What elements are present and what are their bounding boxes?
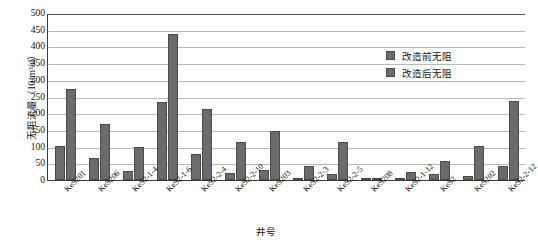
- bars-layer: [48, 14, 525, 180]
- bar: [202, 109, 212, 180]
- bar: [293, 178, 303, 180]
- bar: [123, 171, 133, 180]
- bar: [429, 174, 439, 180]
- y-tick-label: 150: [3, 126, 45, 136]
- legend-label: 改造前无阻: [402, 49, 452, 63]
- bar: [474, 146, 484, 180]
- bar-group: [287, 14, 321, 180]
- bar-group: [491, 14, 525, 180]
- y-tick-label: 400: [3, 43, 45, 53]
- bar-group: [423, 14, 457, 180]
- y-tick-label: 100: [3, 143, 45, 153]
- bar-group: [218, 14, 252, 180]
- legend: 改造前无阻改造后无阻: [386, 48, 516, 82]
- bar-group: [321, 14, 355, 180]
- bar: [191, 154, 201, 180]
- bar: [66, 89, 76, 180]
- bar: [395, 178, 405, 180]
- bar: [498, 166, 508, 180]
- plot-area: 050100150200250300350400450500: [47, 14, 525, 181]
- bar-group: [116, 14, 150, 180]
- legend-swatch-icon: [386, 51, 395, 60]
- bar: [157, 102, 167, 180]
- bar: [89, 158, 99, 180]
- legend-item: 改造前无阻: [386, 48, 516, 63]
- legend-swatch-icon: [386, 68, 395, 77]
- legend-label: 改造后无阻: [402, 66, 452, 80]
- y-tick-label: 200: [3, 109, 45, 119]
- bar: [463, 176, 473, 180]
- bar-group: [48, 14, 82, 180]
- bar: [361, 178, 371, 180]
- bar: [100, 124, 110, 180]
- bar: [236, 142, 246, 180]
- bar: [509, 101, 519, 180]
- y-tick-label: 0: [3, 176, 45, 186]
- x-axis-title: 井号: [0, 224, 531, 238]
- y-tick-label: 500: [3, 9, 45, 19]
- bar-group: [82, 14, 116, 180]
- bar: [168, 34, 178, 180]
- y-tick-label: 250: [3, 93, 45, 103]
- y-tick-label: 350: [3, 59, 45, 69]
- bar-group: [355, 14, 389, 180]
- bar-group: [150, 14, 184, 180]
- y-tick-label: 50: [3, 160, 45, 170]
- y-tick-label: 450: [3, 26, 45, 36]
- bar: [327, 174, 337, 180]
- legend-item: 改造后无阻: [386, 65, 516, 80]
- bar-group: [184, 14, 218, 180]
- bar-group: [252, 14, 286, 180]
- bar-group: [389, 14, 423, 180]
- bar-group: [457, 14, 491, 180]
- bar: [270, 131, 280, 180]
- y-tick-label: 300: [3, 76, 45, 86]
- bar: [55, 146, 65, 180]
- bar: [225, 173, 235, 180]
